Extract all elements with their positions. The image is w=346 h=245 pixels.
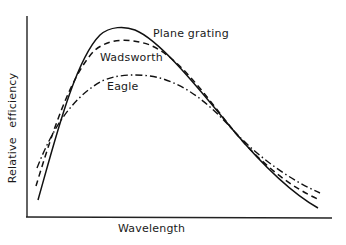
label-eagle: Eagle (107, 80, 139, 93)
x-axis (26, 217, 332, 218)
label-plane-grating: Plane grating (153, 27, 229, 40)
curve-wadsworth (36, 40, 320, 200)
label-wadsworth: Wadsworth (100, 51, 163, 64)
x-axis-label: Wavelength (118, 222, 185, 235)
curve-plane-grating (38, 27, 318, 208)
curve-eagle (37, 75, 320, 193)
y-axis-label: Relative efficiency (6, 73, 19, 184)
